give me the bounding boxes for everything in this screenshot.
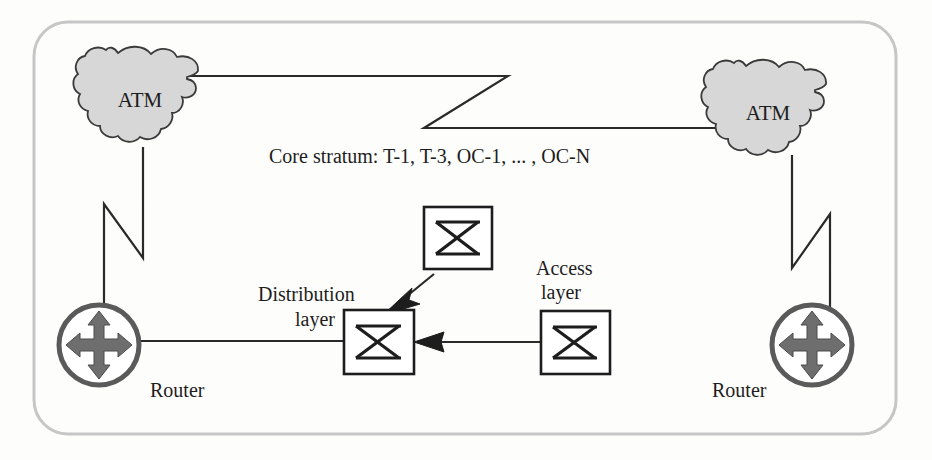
access-layer-label-line1: Access xyxy=(536,257,593,279)
router-right-label: Router xyxy=(712,379,767,401)
router-right: Router xyxy=(712,305,852,401)
access-layer-label-line2: layer xyxy=(541,281,581,304)
switch-distribution xyxy=(344,310,414,374)
link-top-core xyxy=(186,76,742,128)
arrowhead-access-right xyxy=(414,332,444,352)
switch-access-right xyxy=(541,311,610,374)
link-left-vertical xyxy=(104,147,143,318)
cloud-atm-left: ATM xyxy=(73,47,198,142)
core-stratum-label: Core stratum: T-1, T-3, OC-1, ... , OC-N xyxy=(269,145,590,167)
cloud-atm-right: ATM xyxy=(701,60,826,155)
link-right-vertical xyxy=(792,155,830,322)
router-left-label: Router xyxy=(150,379,205,401)
distribution-layer-label-line1: Distribution xyxy=(258,283,355,305)
diagram-canvas: ATM ATM Core stratum: T-1, T-3, OC-1, ..… xyxy=(0,0,932,460)
access-layer-label: Access layer xyxy=(536,257,593,304)
router-left: Router xyxy=(59,305,205,401)
switch-access-top xyxy=(424,207,492,269)
cloud-atm-right-label: ATM xyxy=(746,101,791,125)
distribution-layer-label: Distribution layer xyxy=(258,283,355,331)
network-diagram: ATM ATM Core stratum: T-1, T-3, OC-1, ..… xyxy=(0,0,932,460)
cloud-atm-left-label: ATM xyxy=(118,88,163,112)
distribution-layer-label-line2: layer xyxy=(295,308,335,331)
